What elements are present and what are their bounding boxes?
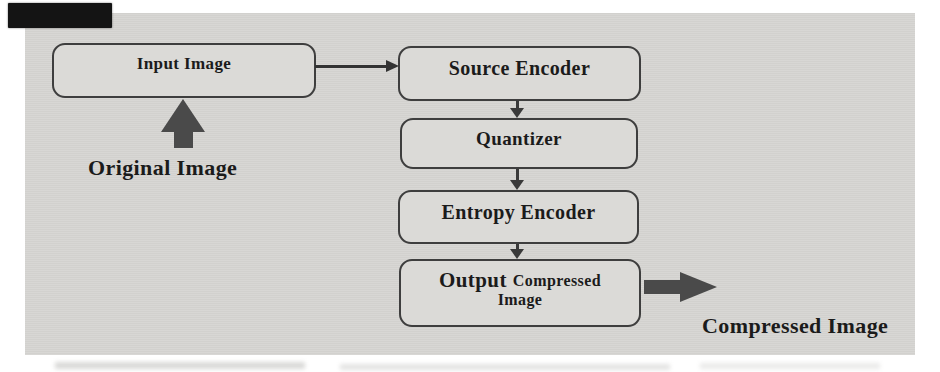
arrowhead-down-icon (510, 249, 524, 259)
arrow-shaft (644, 280, 682, 294)
node-entropy-encoder: Entropy Encoder (398, 190, 639, 244)
node-output: OutputCompressed Image (399, 259, 641, 327)
node-output-label-secondary: Compressed (513, 272, 601, 289)
node-quantizer: Quantizer (400, 118, 638, 169)
scan-smudge (55, 362, 305, 369)
arrow-shaft (315, 65, 387, 68)
node-quantizer-label: Quantizer (476, 128, 562, 150)
node-source-encoder-label: Source Encoder (449, 57, 590, 80)
node-output-label: OutputCompressed Image (439, 271, 601, 309)
scan-artifact-bar (8, 3, 112, 28)
node-output-label-primary: Output (439, 268, 507, 292)
arrow-shaft (174, 131, 193, 148)
label-original-image: Original Image (88, 155, 237, 181)
arrowhead-down-icon (510, 180, 524, 190)
arrowhead-right-icon (680, 272, 717, 302)
node-input-image: Input Image (52, 43, 316, 98)
arrowhead-up-icon (161, 99, 205, 132)
node-output-line1: OutputCompressed (439, 271, 601, 290)
node-input-image-label: Input Image (137, 54, 232, 74)
arrowhead-down-icon (510, 108, 524, 118)
scanned-figure: Input Image Source Encoder Quantizer Ent… (0, 0, 940, 372)
label-compressed-image: Compressed Image (702, 313, 888, 339)
scan-smudge (340, 364, 670, 370)
node-output-line2: Image (439, 290, 601, 309)
node-entropy-encoder-label: Entropy Encoder (442, 201, 596, 224)
arrowhead-right-icon (386, 60, 399, 72)
arrow-shaft (516, 169, 519, 180)
scan-smudge (700, 363, 880, 369)
node-source-encoder: Source Encoder (398, 46, 641, 101)
